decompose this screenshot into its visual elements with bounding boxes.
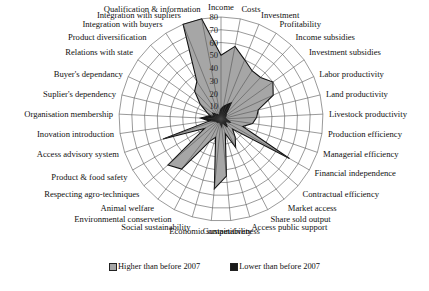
category-label: Investment subsidies bbox=[309, 47, 382, 57]
tick-label: 70 bbox=[209, 25, 218, 35]
category-label: Environmental conservetion bbox=[74, 214, 172, 224]
series-higher-area bbox=[163, 19, 289, 189]
category-label: Access advisory system bbox=[37, 149, 119, 159]
legend-label-higher: Higher than before 2007 bbox=[118, 262, 200, 271]
category-label: Relations with state bbox=[65, 47, 133, 57]
radar-chart: 1020304050607080 IncomeCostsInvestmentPr… bbox=[0, 0, 429, 291]
tick-label: 40 bbox=[209, 63, 218, 73]
legend-item-lower: Lower than before 2007 bbox=[230, 262, 320, 271]
category-label: Income subsidies bbox=[296, 32, 356, 42]
category-label: Inovation introduction bbox=[37, 129, 115, 139]
legend-label-lower: Lower than before 2007 bbox=[239, 262, 320, 271]
category-label: Income bbox=[208, 2, 234, 12]
category-label: Integration with buyers bbox=[82, 19, 163, 29]
category-label: Organisation membership bbox=[24, 109, 113, 119]
category-label: Costs bbox=[241, 4, 261, 14]
category-label: Qualification & information bbox=[104, 4, 202, 14]
category-label: Suplier's dependency bbox=[43, 89, 117, 99]
category-label: Financial independence bbox=[315, 168, 397, 178]
category-label: Production efficiency bbox=[328, 129, 403, 139]
tick-label: 60 bbox=[209, 38, 218, 48]
category-label: Livestock productivity bbox=[329, 109, 408, 119]
category-label: Buyer's dependancy bbox=[54, 69, 124, 79]
legend: Higher than before 2007 Lower than befor… bbox=[0, 262, 429, 271]
tick-label: 30 bbox=[209, 76, 218, 86]
legend-swatch-higher bbox=[109, 263, 117, 271]
category-label: Profitability bbox=[279, 19, 321, 29]
radar-series bbox=[163, 19, 289, 189]
tick-label: 20 bbox=[209, 89, 218, 99]
legend-item-higher: Higher than before 2007 bbox=[109, 262, 200, 271]
category-label: Respecting agro-techniques bbox=[44, 189, 140, 199]
category-label: Product & food safety bbox=[51, 172, 128, 182]
category-label: Contractual efficiency bbox=[303, 189, 380, 199]
category-label: Managerial efficiency bbox=[323, 149, 399, 159]
tick-label: 10 bbox=[209, 101, 218, 111]
tick-label: 50 bbox=[209, 50, 218, 60]
legend-swatch-lower bbox=[230, 263, 238, 271]
category-label: Product diversification bbox=[68, 32, 147, 42]
tick-label: 80 bbox=[209, 12, 218, 22]
category-label: Access public support bbox=[251, 222, 328, 232]
category-label: Land productivity bbox=[326, 89, 389, 99]
category-label: Animal welfare bbox=[101, 203, 155, 213]
category-label: Labor productivity bbox=[319, 69, 384, 79]
category-label: Market access bbox=[288, 203, 338, 213]
